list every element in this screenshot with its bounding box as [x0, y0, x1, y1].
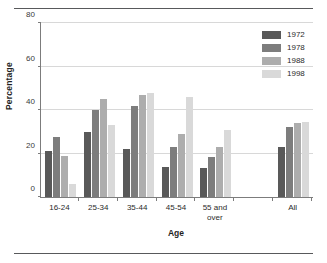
bar — [147, 93, 154, 197]
legend-item: 1998 — [262, 67, 305, 80]
x-tick-slot — [273, 197, 312, 201]
x-axis-ticks — [40, 197, 312, 201]
bar — [162, 167, 169, 197]
x-tick-slot — [234, 197, 273, 201]
bar — [69, 184, 76, 197]
bar-group — [41, 23, 80, 197]
bar — [302, 122, 309, 197]
bar — [108, 125, 115, 197]
x-tick-slot — [118, 197, 157, 201]
bar — [294, 123, 301, 197]
bar — [208, 157, 215, 197]
y-tick-label: 60 — [26, 53, 35, 62]
legend-item: 1972 — [262, 28, 305, 41]
bar — [278, 147, 285, 197]
bar-group — [158, 23, 197, 197]
legend-swatch — [262, 44, 281, 52]
bar — [92, 110, 99, 197]
x-tick-label: 55 and over — [195, 203, 234, 223]
x-tick-label: 45-54 — [157, 203, 196, 223]
x-tick-label: 16-24 — [40, 203, 79, 223]
x-tick-label: All — [273, 203, 312, 223]
x-tick-label: 35-44 — [118, 203, 157, 223]
x-tick-slot — [79, 197, 118, 201]
bar — [200, 168, 207, 197]
bar — [45, 151, 52, 197]
legend-swatch — [262, 70, 281, 78]
x-tick-mark — [311, 197, 312, 201]
bar — [224, 130, 231, 197]
x-axis-title: Age — [40, 228, 312, 238]
y-tick-label: 40 — [26, 97, 35, 106]
bottom-divider-rule — [14, 253, 313, 254]
y-tick-label: 0 — [31, 184, 35, 193]
x-axis-tick-labels: 16-2425-3435-4445-5455 and overAll — [40, 203, 312, 223]
legend-label: 1972 — [287, 30, 305, 39]
legend-swatch — [262, 57, 281, 65]
bar — [61, 156, 68, 197]
legend-label: 1998 — [287, 69, 305, 78]
bar — [53, 137, 60, 197]
bar — [100, 99, 107, 197]
x-tick-slot — [195, 197, 234, 201]
bar — [170, 147, 177, 197]
bar — [84, 132, 91, 197]
bar — [178, 134, 185, 197]
legend-label: 1988 — [287, 56, 305, 65]
bar — [216, 147, 223, 197]
bar — [139, 95, 146, 197]
y-tick-label: 80 — [26, 10, 35, 19]
bar — [286, 127, 293, 197]
x-tick-label — [234, 203, 273, 223]
top-divider-rule — [14, 8, 313, 9]
legend-item: 1988 — [262, 54, 305, 67]
bar — [186, 97, 193, 197]
x-tick-slot — [157, 197, 196, 201]
bar-group — [119, 23, 158, 197]
x-tick-label: 25-34 — [79, 203, 118, 223]
bar-group — [80, 23, 119, 197]
legend-label: 1978 — [287, 43, 305, 52]
bar-group — [196, 23, 235, 197]
bar-chart-figure: Percentage 020406080 16-2425-3435-4445-5… — [0, 0, 327, 263]
x-tick-slot — [40, 197, 79, 201]
legend-swatch — [262, 31, 281, 39]
bar — [123, 149, 130, 197]
y-tick-label: 20 — [26, 140, 35, 149]
legend: 1972197819881998 — [262, 28, 305, 80]
y-axis-title: Percentage — [4, 62, 14, 110]
bar — [131, 106, 138, 197]
legend-item: 1978 — [262, 41, 305, 54]
